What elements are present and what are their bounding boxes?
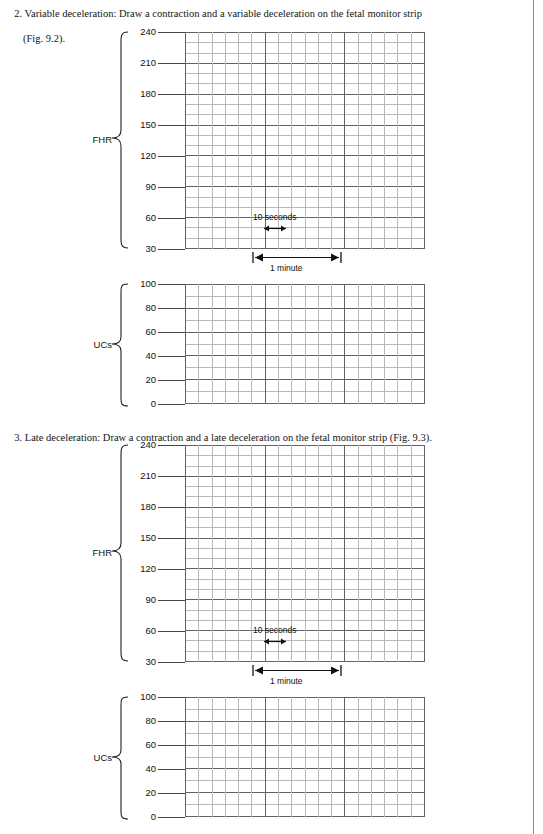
grid-line-minor-v [198, 697, 199, 817]
grid-line-major-v [424, 32, 425, 249]
grid-line-major-v [424, 697, 425, 817]
fhr-grid-surface [185, 445, 425, 662]
grid-line-minor-v [198, 284, 199, 404]
grid-line-minor-v [331, 284, 332, 404]
ten-seconds-arrow-icon [260, 637, 290, 646]
y-tick-90: 90 [145, 595, 156, 605]
grid-line-minor-v [397, 445, 398, 662]
page-border-rule [533, 0, 534, 834]
ten-seconds-label: 10 seconds [253, 625, 296, 635]
grid-line-minor-v [212, 284, 213, 404]
grid-line-minor-v [318, 32, 319, 249]
ucs-grid-surface [185, 697, 425, 817]
chart-ucs-contraction-1: UCs 100 80 60 40 20 0 [108, 282, 438, 412]
one-minute-label: 1 minute [270, 263, 303, 273]
grid-line-minor-v [212, 32, 213, 249]
instruction-item-3: 3. Late deceleration: Draw a contraction… [9, 420, 537, 445]
grid-line-minor-v [358, 697, 359, 817]
grid-line-minor-v [291, 697, 292, 817]
grid-line-minor-v [225, 284, 226, 404]
fhr-grid-surface [185, 32, 425, 249]
grid-line-minor-v [238, 697, 239, 817]
grid-line-minor-v [291, 284, 292, 404]
grid-line-minor-v [358, 445, 359, 662]
grid-line-minor-v [358, 284, 359, 404]
fhr-axis-label: FHR [78, 547, 112, 558]
y-tick-60: 60 [145, 740, 156, 750]
grid-line-minor-v [225, 697, 226, 817]
y-tick-30: 30 [145, 244, 156, 254]
y-tick-80: 80 [145, 716, 156, 726]
grid-line-minor-v [411, 32, 412, 249]
fhr-axis-label: FHR [78, 134, 112, 145]
grid-line-minor-v [411, 445, 412, 662]
grid-line-minor-v [318, 284, 319, 404]
grid-line-minor-v [397, 284, 398, 404]
chart-ucs-contraction-2: UCs 100 80 60 40 20 0 [108, 695, 438, 825]
grid-line-minor-v [331, 32, 332, 249]
ten-seconds-arrow-icon [260, 224, 290, 233]
grid-line-minor-v [371, 32, 372, 249]
grid-line-major-v [185, 445, 186, 662]
grid-line-major-v [185, 284, 186, 404]
y-tick-210: 210 [140, 58, 156, 68]
grid-line-minor-v [198, 445, 199, 662]
y-tick-90: 90 [145, 182, 156, 192]
grid-line-minor-v [397, 32, 398, 249]
grid-line-major-v [424, 445, 425, 662]
grid-line-minor-v [212, 445, 213, 662]
y-tick-120: 120 [140, 151, 156, 161]
grid-line-minor-v [278, 697, 279, 817]
y-tick-20: 20 [145, 788, 156, 798]
grid-line-minor-v [411, 697, 412, 817]
grid-line-minor-v [251, 284, 252, 404]
y-tick-80: 80 [145, 303, 156, 313]
y-tick-210: 210 [140, 471, 156, 481]
y-tick-150: 150 [140, 120, 156, 130]
grid-line-minor-v [371, 284, 372, 404]
grid-line-minor-v [318, 697, 319, 817]
grid-line-major-v [265, 697, 266, 817]
instruction-2-line1: 2. Variable deceleration: Draw a contrac… [14, 8, 422, 19]
chart-fhr-late-deceleration: FHR 240 210 180 150 120 90 60 30 10 seco… [108, 443, 438, 673]
grid-line-minor-v [238, 284, 239, 404]
ucs-axis-label: UCs [78, 752, 112, 763]
y-tick-60: 60 [145, 327, 156, 337]
grid-line-minor-v [238, 445, 239, 662]
y-tick-20: 20 [145, 375, 156, 385]
grid-line-minor-v [305, 284, 306, 404]
grid-line-minor-v [371, 445, 372, 662]
y-tick-100: 100 [140, 692, 156, 702]
grid-line-minor-v [251, 697, 252, 817]
grid-line-major-v [344, 32, 345, 249]
y-tick-240: 240 [140, 27, 156, 37]
y-tick-60: 60 [145, 213, 156, 223]
grid-line-minor-v [358, 32, 359, 249]
ucs-grid-surface [185, 284, 425, 404]
grid-line-minor-v [251, 32, 252, 249]
grid-line-major-v [344, 445, 345, 662]
y-tick-150: 150 [140, 533, 156, 543]
grid-line-minor-v [384, 284, 385, 404]
grid-line-major-v [185, 697, 186, 817]
y-tick-0: 0 [151, 399, 156, 409]
chart-fhr-variable-deceleration: FHR 240 210 180 150 120 90 60 30 10 seco… [108, 30, 438, 260]
grid-line-minor-v [397, 697, 398, 817]
y-tick-120: 120 [140, 564, 156, 574]
grid-line-minor-v [384, 32, 385, 249]
y-tick-40: 40 [145, 764, 156, 774]
grid-line-minor-v [198, 32, 199, 249]
grid-line-minor-v [278, 284, 279, 404]
y-tick-0: 0 [151, 812, 156, 822]
grid-line-minor-v [411, 284, 412, 404]
grid-line-minor-v [371, 697, 372, 817]
grid-line-minor-v [225, 32, 226, 249]
grid-line-major-v [265, 284, 266, 404]
one-minute-label: 1 minute [270, 676, 303, 686]
grid-line-major-v [344, 697, 345, 817]
y-tick-60: 60 [145, 626, 156, 636]
y-tick-40: 40 [145, 351, 156, 361]
grid-line-minor-v [305, 32, 306, 249]
grid-line-minor-v [305, 697, 306, 817]
instruction-3-line1: 3. Late deceleration: Draw a contraction… [14, 432, 432, 443]
